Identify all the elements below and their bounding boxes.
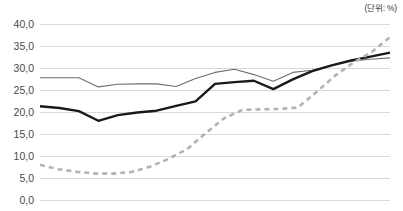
- y-axis-tick-labels: 0,05,010,015,020,025,030,035,040,0: [14, 18, 35, 206]
- y-axis-tick-label: 25,0: [14, 84, 35, 96]
- series-line-series-dashed: [40, 37, 390, 173]
- series-line-series-thick-solid: [40, 53, 390, 121]
- chart-container: (단위: %) 0,05,010,015,020,025,030,035,040…: [0, 0, 403, 211]
- y-axis-tick-label: 30,0: [14, 62, 35, 74]
- y-axis-tick-label: 5,0: [19, 172, 34, 184]
- y-axis-tick-label: 10,0: [14, 150, 35, 162]
- line-chart-plot: 0,05,010,015,020,025,030,035,040,0: [0, 0, 403, 211]
- y-axis-tick-label: 35,0: [14, 40, 35, 52]
- y-axis-tick-label: 15,0: [14, 128, 35, 140]
- y-axis-tick-label: 20,0: [14, 106, 35, 118]
- data-series-group: [40, 37, 390, 173]
- series-line-series-thin-solid: [40, 58, 390, 87]
- gridlines: [40, 24, 390, 200]
- y-axis-tick-label: 40,0: [14, 18, 35, 30]
- y-axis-tick-label: 0,0: [19, 194, 34, 206]
